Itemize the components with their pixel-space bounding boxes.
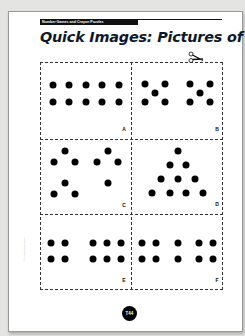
card-label: C — [122, 202, 126, 208]
dot — [51, 159, 58, 166]
dot — [153, 240, 160, 247]
card-label: E — [122, 277, 125, 283]
dot — [200, 190, 207, 197]
dot — [183, 162, 190, 169]
dot — [192, 176, 199, 183]
dot — [48, 256, 55, 263]
dot — [90, 240, 97, 247]
card-label: A — [122, 126, 126, 132]
page-title: Quick Images: Pictures of 10 — [40, 29, 245, 45]
card-label: B — [215, 126, 219, 132]
dot — [62, 180, 69, 187]
dot — [118, 256, 125, 263]
grid-divider-horizontal-1 — [40, 139, 223, 140]
dot — [139, 256, 146, 263]
dot — [66, 82, 73, 89]
dot — [116, 99, 123, 106]
dot — [207, 99, 214, 106]
dot — [196, 240, 203, 247]
dot — [104, 256, 111, 263]
dot — [118, 240, 125, 247]
dot — [99, 82, 106, 89]
dot — [187, 81, 194, 88]
dot — [196, 256, 203, 263]
dot — [105, 180, 112, 187]
dot — [72, 191, 79, 198]
section-header: Number Games and Crayon Puzzles — [40, 19, 138, 25]
dot — [175, 240, 182, 247]
dot — [48, 240, 55, 247]
dot — [83, 82, 90, 89]
dot — [62, 240, 69, 247]
dot — [162, 81, 169, 88]
dot — [187, 99, 194, 106]
dot — [152, 90, 159, 97]
grid-divider-horizontal-2 — [40, 214, 223, 215]
dot — [51, 191, 58, 198]
dot — [62, 256, 69, 263]
dot — [66, 99, 73, 106]
card-label: D — [215, 201, 219, 207]
dot — [116, 82, 123, 89]
dot — [94, 159, 101, 166]
dot — [90, 256, 97, 263]
dot — [142, 99, 149, 106]
dot — [62, 148, 69, 155]
dot — [50, 82, 57, 89]
dot — [167, 190, 174, 197]
copyright-text: © Pearson Education 2 — [23, 236, 26, 262]
dot — [175, 148, 182, 155]
dot — [50, 99, 57, 106]
dot — [115, 159, 122, 166]
dot — [175, 176, 182, 183]
dot — [197, 90, 204, 97]
dot — [153, 256, 160, 263]
dot — [158, 176, 165, 183]
dot — [167, 162, 174, 169]
dot — [83, 99, 90, 106]
grid-divider-vertical — [131, 62, 132, 290]
card-label: F — [215, 277, 218, 283]
dot — [99, 99, 106, 106]
page-number-badge: T44 — [122, 306, 137, 321]
dot — [175, 256, 182, 263]
dot — [149, 190, 156, 197]
dot — [105, 148, 112, 155]
dot — [183, 190, 190, 197]
dot — [72, 159, 79, 166]
dot — [207, 81, 214, 88]
dot — [142, 81, 149, 88]
dot — [210, 256, 217, 263]
dot — [162, 99, 169, 106]
dot — [210, 240, 217, 247]
dot — [139, 240, 146, 247]
dot — [104, 240, 111, 247]
